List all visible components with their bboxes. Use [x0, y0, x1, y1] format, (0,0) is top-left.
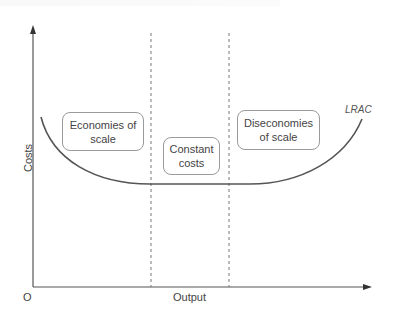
- y-axis-arrow-icon: [30, 25, 36, 34]
- x-axis-label: Output: [173, 291, 206, 303]
- origin-label: O: [23, 291, 32, 303]
- diseconomies-of-scale-box: Diseconomies of scale: [237, 110, 320, 150]
- lrac-label: LRAC: [345, 104, 372, 115]
- constant-line2: costs: [169, 156, 213, 170]
- y-axis-label: Costs: [22, 143, 34, 173]
- constant-line1: Constant: [169, 142, 213, 156]
- diseconomies-line2: of scale: [244, 130, 313, 144]
- diseconomies-line1: Diseconomies: [244, 116, 313, 130]
- economies-of-scale-box: Economies of scale: [62, 112, 144, 151]
- x-axis-arrow-icon: [363, 284, 372, 290]
- constant-costs-box: Constant costs: [163, 137, 220, 175]
- economies-line2: scale: [70, 132, 137, 146]
- economies-line1: Economies of: [70, 118, 137, 132]
